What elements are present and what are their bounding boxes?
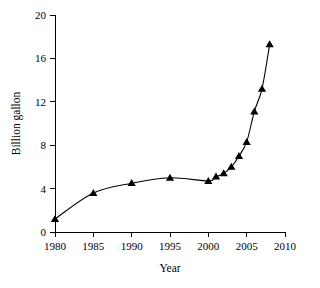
data-point-marker [258,85,266,92]
x-tick-label: 1980 [44,240,67,252]
y-tick-label: 16 [35,52,47,64]
data-point-marker [235,152,243,159]
y-tick-label: 8 [41,139,47,151]
chart-figure: 1980198519901995200020052010048121620Yea… [0,0,320,288]
x-tick-label: 1995 [159,240,182,252]
data-point-marker [250,108,258,115]
x-tick-label: 2005 [236,240,259,252]
data-point-marker [51,215,59,222]
y-tick-label: 12 [35,96,46,108]
y-tick-label: 0 [41,226,47,238]
line-chart: 1980198519901995200020052010048121620Yea… [0,0,320,288]
y-axis-title: Billion gallon [10,91,23,155]
data-series-line [55,44,270,219]
data-point-marker [166,174,174,181]
data-point-marker [89,189,97,196]
x-tick-label: 1985 [82,240,105,252]
data-point-marker [243,138,251,145]
y-tick-label: 20 [35,9,47,21]
x-tick-label: 2000 [197,240,220,252]
x-tick-label: 2010 [274,240,297,252]
y-tick-label: 4 [41,183,47,195]
data-point-marker [212,173,220,180]
data-point-marker [220,169,228,176]
x-tick-label: 1990 [121,240,144,252]
data-point-marker [266,40,274,47]
x-axis-title: Year [159,262,180,274]
